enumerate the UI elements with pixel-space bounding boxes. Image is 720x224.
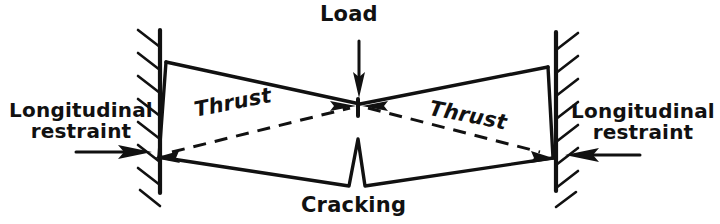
load-arrow-icon: [353, 41, 365, 98]
cracking-label: Cracking: [301, 193, 406, 217]
restraint-right-label-line2: restraint: [568, 122, 718, 143]
restraint-left-label-line2: restraint: [6, 121, 156, 142]
restraint-left-label: Longitudinal restraint: [6, 100, 156, 142]
restraint-right-label-line1: Longitudinal: [568, 101, 718, 122]
restraint-right-label: Longitudinal restraint: [568, 101, 718, 143]
load-label: Load: [320, 2, 378, 26]
beam-right-end-face: [548, 67, 553, 158]
beam-bottom-chord-with-crack: [159, 139, 553, 186]
restraint-left-label-line1: Longitudinal: [6, 100, 156, 121]
engineering-diagram: Load Cracking Longitudinal restraint Lon…: [0, 0, 720, 224]
